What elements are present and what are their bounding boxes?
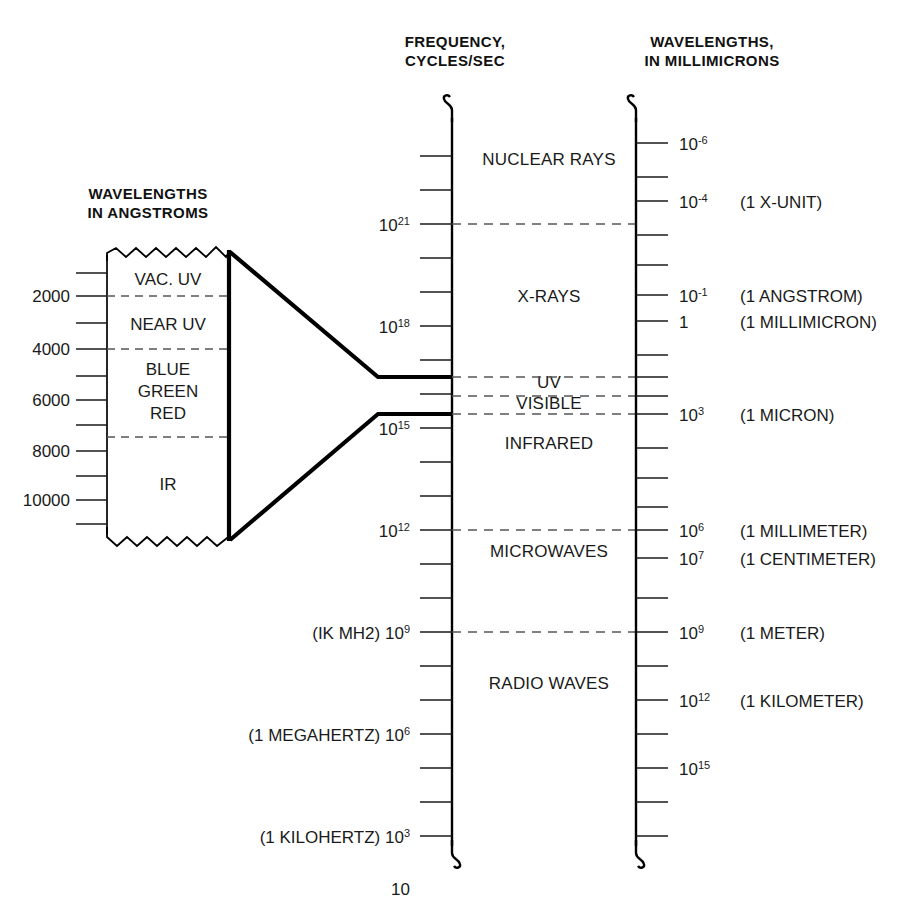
freq-mantissa: 10: [385, 624, 404, 643]
wavelength-label-1em4: 10-4 (1 X-UNIT): [679, 192, 822, 212]
band-label-x-rays: X-RAYS: [517, 287, 580, 306]
wavelength-label-1e3: 103 (1 MICRON): [679, 405, 834, 425]
wl-exponent: 6: [698, 521, 704, 533]
frequency-tick-label-10: 10: [391, 880, 410, 899]
band-label-infrared: INFRARED: [505, 434, 594, 453]
wl-exponent: 9: [698, 623, 704, 635]
box-bottom-wavy-edge: [107, 527, 229, 546]
header-frequency-line1: FREQUENCY,: [405, 33, 506, 50]
angstrom-tick-label-4000: 4000: [32, 340, 70, 359]
svg-text:103: 103: [679, 405, 704, 425]
freq-mantissa: 10: [391, 880, 410, 899]
wl-exponent: 7: [698, 549, 704, 561]
frequency-axis-bottom-break: [452, 840, 460, 868]
wavelength-ticks: [636, 143, 668, 836]
wavelength-label-1: 1 (1 MILLIMICRON): [679, 313, 877, 332]
wl-note: (1 MICRON): [740, 406, 834, 425]
wl-exponent: 12: [698, 691, 710, 703]
wavelength-label-1e15: 1015: [679, 759, 710, 779]
frequency-axis-top-break: [444, 95, 452, 122]
wl-mantissa: 10: [679, 522, 698, 541]
wl-note: (1 CENTIMETER): [740, 550, 876, 569]
header-angstrom-line1: WAVELENGTHS: [88, 185, 207, 202]
angstrom-band-red: RED: [150, 404, 186, 423]
frequency-tick-label-1e18: 1018: [379, 317, 410, 337]
header-frequency-line2: CYCLES/SEC: [405, 52, 505, 69]
freq-exponent: 18: [398, 317, 410, 329]
funnel-lower-line: [230, 414, 452, 540]
funnel-connector-group: [230, 252, 452, 540]
svg-text:1012: 1012: [379, 521, 410, 541]
diagram-canvas: FREQUENCY, CYCLES/SEC WAVELENGTHS, IN MI…: [0, 0, 921, 916]
svg-text:1018: 1018: [379, 317, 410, 337]
wl-mantissa: 10: [679, 550, 698, 569]
svg-text:1021: 1021: [379, 215, 410, 235]
freq-exponent: 3: [404, 827, 410, 839]
svg-text:1: 1: [679, 313, 688, 332]
angstrom-band-green: GREEN: [138, 382, 198, 401]
angstrom-band-blue: BLUE: [146, 360, 190, 379]
freq-mantissa: 10: [385, 726, 404, 745]
svg-text:10-6: 10-6: [679, 134, 708, 154]
band-boundary-connectors: [452, 224, 636, 632]
wl-note: (1 ANGSTROM): [740, 287, 863, 306]
freq-prefix: (1 KILOHERTZ): [260, 828, 381, 847]
svg-text:10: 10: [391, 880, 410, 899]
svg-text:(1 KILOHERTZ) 103: (1 KILOHERTZ) 103: [260, 827, 410, 847]
svg-text:(IK MH2) 109: (IK MH2) 109: [312, 623, 410, 643]
wl-mantissa: 10: [679, 287, 698, 306]
freq-exponent: 6: [404, 725, 410, 737]
header-frequency: FREQUENCY, CYCLES/SEC: [405, 33, 506, 69]
freq-mantissa: 10: [379, 318, 398, 337]
wavelength-label-1em1: 10-1 (1 ANGSTROM): [679, 286, 863, 306]
wavelength-label-1e9: 109 (1 METER): [679, 623, 825, 643]
svg-text:1015: 1015: [379, 419, 410, 439]
freq-mantissa: 10: [379, 420, 398, 439]
angstrom-tick-label-2000: 2000: [32, 287, 70, 306]
angstrom-scale-group: 2000 4000 6000 8000 10000 VAC. UV NEAR U…: [23, 247, 229, 546]
freq-exponent: 9: [404, 623, 410, 635]
freq-exponent: 12: [398, 521, 410, 533]
angstrom-tick-label-10000: 10000: [23, 491, 70, 510]
wl-exponent: 3: [698, 405, 704, 417]
wavelength-axis-group: 10-6 10-4 (1 X-UNIT) 10-1 (1 ANGSTROM) 1…: [628, 95, 877, 867]
wl-mantissa: 10: [679, 193, 698, 212]
header-angstrom-line2: IN ANGSTROMS: [88, 204, 209, 221]
wl-exponent: -6: [698, 134, 708, 146]
angstrom-band-ir: IR: [160, 475, 177, 494]
angstrom-ticks: [76, 273, 107, 524]
frequency-tick-label-1e12: 1012: [379, 521, 410, 541]
frequency-tick-label-1e15: 1015: [379, 419, 410, 439]
wl-exponent: -1: [698, 286, 708, 298]
wl-mantissa: 10: [679, 624, 698, 643]
wavelength-axis-top-break: [628, 95, 636, 122]
freq-mantissa: 10: [379, 522, 398, 541]
header-wavelength-line2: IN MILLIMICRONS: [644, 52, 779, 69]
wl-note: (1 X-UNIT): [740, 193, 822, 212]
wavelength-label-1e6: 106 (1 MILLIMETER): [679, 521, 868, 541]
svg-text:1015: 1015: [679, 759, 710, 779]
header-wavelengths-millimicrons: WAVELENGTHS, IN MILLIMICRONS: [644, 33, 779, 69]
wavelength-label-1em6: 10-6: [679, 134, 708, 154]
svg-text:10-4: 10-4: [679, 192, 708, 212]
wavelength-label-1e7: 107 (1 CENTIMETER): [679, 549, 876, 569]
freq-exponent: 21: [398, 215, 410, 227]
band-label-radio-waves: RADIO WAVES: [489, 674, 609, 693]
band-label-visible: VISIBLE: [516, 394, 582, 413]
freq-exponent: 15: [398, 419, 410, 431]
wl-exponent: -4: [698, 192, 708, 204]
funnel-upper-line: [230, 252, 452, 377]
angstrom-tick-label-6000: 6000: [32, 391, 70, 410]
svg-text:1012: 1012: [679, 691, 710, 711]
freq-mantissa: 10: [385, 828, 404, 847]
wl-exponent: 15: [698, 759, 710, 771]
frequency-tick-label-1e3: (1 KILOHERTZ) 103: [260, 827, 410, 847]
header-wavelengths-angstroms: WAVELENGTHS IN ANGSTROMS: [88, 185, 209, 221]
svg-text:10-1: 10-1: [679, 286, 708, 306]
wl-mantissa: 10: [679, 760, 698, 779]
band-label-microwaves: MICROWAVES: [490, 542, 608, 561]
frequency-tick-label-1e21: 1021: [379, 215, 410, 235]
svg-text:107: 107: [679, 549, 704, 569]
wl-note: (1 METER): [740, 624, 825, 643]
frequency-tick-label-1e9: (IK MH2) 109: [312, 623, 410, 643]
